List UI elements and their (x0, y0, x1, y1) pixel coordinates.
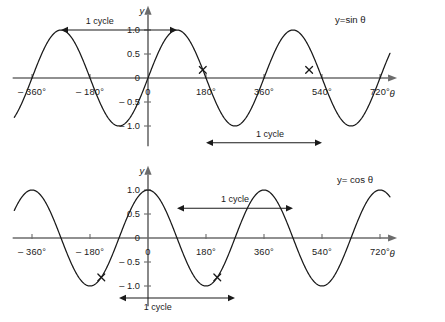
cosine-cycle-annotation: 1 cycle (119, 295, 235, 312)
cycle-arrow-right (315, 140, 322, 147)
cycle-arrow-left (61, 27, 68, 34)
cosine-x-tick-label: 360° (254, 247, 274, 257)
trig-graphs-figure: – 360°– 180°0180°360°540°720°θ– 1.0– 0.5… (0, 0, 445, 322)
cycle-arrow-right (170, 27, 177, 34)
sine-x-axis-name: θ (389, 88, 395, 99)
sine-x-tick-label: – 360° (18, 87, 46, 97)
cosine-y-axis-name: y (139, 165, 146, 176)
cosine-cycle-label: 1 cycle (221, 194, 249, 204)
cosine-x-tick-label: – 360° (18, 247, 46, 257)
cosine-x-axis-arrowhead (388, 234, 397, 241)
figure-canvas: – 360°– 180°0180°360°540°720°θ– 1.0– 0.5… (0, 0, 445, 322)
sine-cycle-annotation: 1 cycle (61, 16, 177, 33)
cosine-y-tick-label: – 0.5 (119, 257, 140, 267)
sine-x-tick-label: – 180° (76, 87, 104, 97)
sine-cycle-annotation: 1 cycle (206, 129, 322, 146)
sine-point-marker (306, 66, 313, 73)
sine-x-axis-arrowhead (388, 74, 397, 81)
sine-y-tick-label: – 1.0 (119, 121, 140, 131)
cosine-panel: – 360°– 180°0180°360°540°720°θ– 1.0– 0.5… (13, 165, 397, 312)
sine-y-tick-label: 0.5 (127, 49, 140, 59)
cosine-x-tick-label: – 180° (76, 247, 104, 257)
sine-y-axis-name: y (139, 5, 146, 16)
cycle-arrow-right (228, 295, 235, 302)
cycle-arrow-left (177, 205, 184, 212)
cosine-x-tick-label: 540° (312, 247, 332, 257)
cosine-y-tick-label: 0 (135, 233, 140, 243)
cosine-point-marker (214, 274, 221, 281)
cosine-equation-label: y= cos θ (337, 174, 373, 185)
cycle-arrow-left (206, 140, 213, 147)
cycle-arrow-right (286, 205, 293, 212)
sine-cycle-label: 1 cycle (256, 129, 284, 139)
cosine-cycle-annotation: 1 cycle (177, 194, 293, 211)
cosine-x-tick-label: 0 (145, 247, 150, 257)
cosine-x-tick-label: 720° (370, 247, 390, 257)
cosine-x-axis-name: θ (389, 248, 395, 259)
sine-y-axis-arrowhead (144, 6, 151, 15)
sine-y-tick-label: 0 (135, 73, 140, 83)
cosine-cycle-label: 1 cycle (144, 302, 172, 312)
cycle-arrow-left (119, 295, 126, 302)
cosine-point-marker (98, 274, 105, 281)
cosine-x-tick-label: 180° (196, 247, 216, 257)
cosine-y-tick-label: – 1.0 (119, 281, 140, 291)
sine-x-tick-label: 0 (145, 87, 150, 97)
sine-point-marker (199, 66, 206, 73)
sine-panel: – 360°– 180°0180°360°540°720°θ– 1.0– 0.5… (13, 5, 397, 147)
sine-equation-label: y=sin θ (335, 14, 366, 25)
sine-cycle-label: 1 cycle (86, 16, 114, 26)
cosine-y-tick-label: 1.0 (127, 185, 140, 195)
cosine-y-axis-arrowhead (144, 166, 151, 175)
